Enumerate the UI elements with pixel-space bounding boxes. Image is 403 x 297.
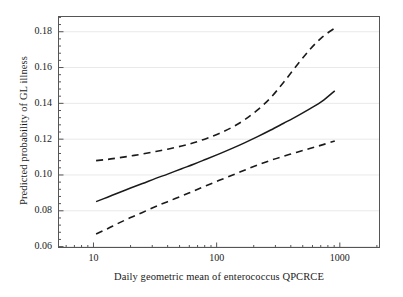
y-tick-label: 0.08	[18, 204, 52, 215]
x-tick-label: 10	[71, 252, 115, 263]
gridline-group	[59, 32, 380, 247]
y-tick-label: 0.10	[18, 168, 52, 179]
series-line-1	[96, 91, 335, 202]
plot-frame	[59, 17, 380, 248]
data-series-group	[96, 28, 335, 234]
series-line-0	[96, 28, 335, 161]
y-tick-label: 0.16	[18, 61, 52, 72]
x-tick-label: 100	[195, 252, 239, 263]
y-tick-label: 0.12	[18, 133, 52, 144]
chart-figure: Predicted probability of GL illness Dail…	[0, 0, 403, 297]
x-tick-label: 1000	[318, 252, 362, 263]
minor-tick-group	[59, 17, 377, 247]
x-axis-label: Daily geometric mean of enterococcus QPC…	[58, 271, 380, 282]
y-tick-label: 0.18	[18, 25, 52, 36]
y-tick-label: 0.14	[18, 97, 52, 108]
y-tick-label: 0.06	[18, 240, 52, 251]
